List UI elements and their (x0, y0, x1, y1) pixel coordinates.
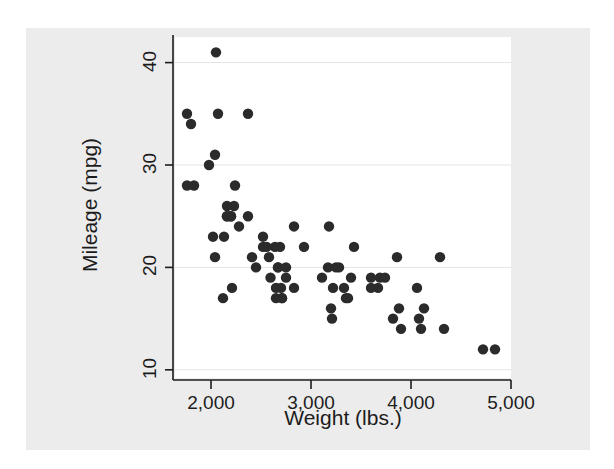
y-tick-label: 20 (140, 248, 159, 284)
y-tick-label: 10 (140, 350, 159, 386)
x-axis-title: Weight (lbs.) (175, 406, 511, 430)
y-tick-label: 40 (140, 43, 159, 79)
figure-root: 2,0003,0004,0005,000 10203040 Weight (lb… (0, 0, 614, 469)
y-axis-title: Mileage (mpg) (78, 100, 102, 310)
y-tick-label: 30 (140, 146, 159, 182)
